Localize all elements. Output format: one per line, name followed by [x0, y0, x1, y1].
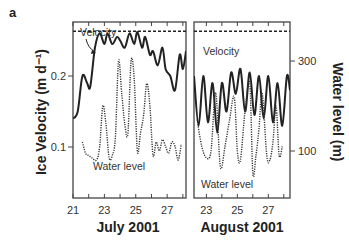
ytick-label-0.2: 0.2	[51, 70, 66, 82]
chart-svg: Ice Velocity (m d⁻¹) 0.2 0.1 21232527 Ve…	[0, 0, 349, 249]
velocity-line	[194, 69, 290, 133]
velocity-annotation-august: Velocity	[203, 45, 240, 57]
right-axis-title: Water level (m)	[330, 62, 346, 161]
water-level-line	[82, 58, 181, 161]
water-level-annotation-august: Water level	[201, 178, 253, 190]
velocity-line	[73, 32, 186, 119]
ytick-label-0.1: 0.1	[51, 141, 66, 153]
x-tick-label: 25	[130, 204, 142, 216]
left-axis-title: Ice Velocity (m d⁻¹)	[33, 49, 49, 175]
right-ytick-label-300: 300	[298, 55, 316, 67]
panel-label: a	[9, 5, 16, 20]
july-axis-title: July 2001	[96, 219, 159, 235]
x-tick-label: 25	[231, 204, 243, 216]
figure: a Ice Velocity (m d⁻¹) 0.2 0.1 21232527 …	[0, 0, 349, 249]
x-tick-label: 27	[262, 204, 274, 216]
water-level-annotation-july: Water level	[93, 160, 145, 172]
july-x-ticks: 21232527	[67, 22, 183, 216]
velocity-annotation-july: Velocity	[80, 26, 117, 38]
right-ytick-label-100: 100	[298, 145, 316, 157]
august-axis-title: August 2001	[200, 219, 283, 235]
x-tick-label: 27	[161, 204, 173, 216]
x-tick-label: 23	[98, 204, 110, 216]
x-tick-label: 23	[200, 204, 212, 216]
july-plot-area	[73, 31, 186, 160]
x-tick-label: 21	[67, 204, 79, 216]
